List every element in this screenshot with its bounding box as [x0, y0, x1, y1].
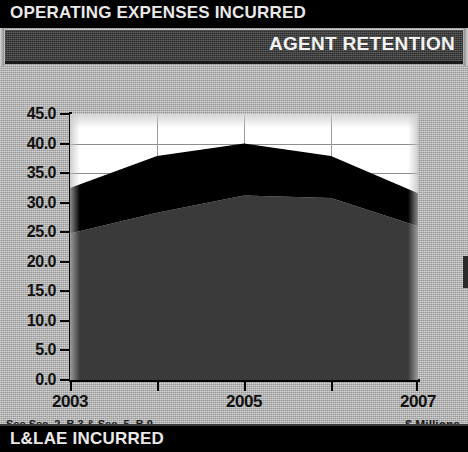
y-axis-tick-mark	[60, 172, 69, 174]
y-axis-tick-label: 30.0	[27, 194, 56, 212]
y-axis-tick-label: 35.0	[27, 164, 56, 182]
y-axis-tick-label: 0.0	[35, 371, 56, 389]
y-axis-tick-mark	[60, 349, 69, 351]
y-axis-tick-mark	[60, 290, 69, 292]
y-axis-tick-mark	[60, 202, 69, 204]
bottom-banner-title: L&LAE INCURRED	[10, 429, 164, 449]
chart-panel: AGENT RETENTION 45.040.035.030.025.020.0…	[0, 28, 468, 424]
x-axis-tick-mark	[244, 382, 246, 391]
x-axis-tick-label: 2005	[226, 392, 262, 412]
section-header-title: AGENT RETENTION	[269, 33, 455, 55]
y-axis-tick-mark	[60, 379, 69, 381]
x-axis-tick-label: 2007	[400, 392, 436, 412]
stacked-area-chart: 45.040.035.030.025.020.015.010.05.00.0 2…	[0, 66, 468, 424]
page-edge-notch	[463, 256, 468, 288]
y-axis-tick-mark	[60, 143, 69, 145]
series-paths	[70, 114, 418, 380]
x-axis-tick-mark	[331, 382, 333, 391]
bottom-banner: L&LAE INCURRED	[0, 424, 468, 452]
y-axis-tick-label: 20.0	[27, 253, 56, 271]
report-panel: OPERATING EXPENSES INCURRED AGENT RETENT…	[0, 0, 468, 452]
x-axis-tick-mark	[70, 382, 72, 391]
y-axis-tick-label: 10.0	[27, 312, 56, 330]
top-banner: OPERATING EXPENSES INCURRED	[0, 0, 468, 28]
y-axis-tick-label: 45.0	[27, 105, 56, 123]
y-axis-tick-mark	[60, 113, 69, 115]
x-axis-tick-mark	[416, 382, 418, 391]
section-header: AGENT RETENTION	[5, 30, 463, 64]
x-axis-tick-label: 2003	[52, 392, 88, 412]
y-axis-tick-label: 15.0	[27, 282, 56, 300]
top-banner-title: OPERATING EXPENSES INCURRED	[10, 3, 306, 23]
y-axis-tick-label: 5.0	[35, 341, 56, 359]
y-axis-tick-label: 25.0	[27, 223, 56, 241]
y-axis-tick-mark	[60, 320, 69, 322]
area-series-lower-band	[70, 196, 418, 380]
y-axis-labels: 45.040.035.030.025.020.015.010.05.00.0	[0, 66, 58, 356]
y-axis-tick-label: 40.0	[27, 135, 56, 153]
y-axis-tick-mark	[60, 231, 69, 233]
y-axis-tick-mark	[60, 261, 69, 263]
x-axis-tick-mark	[157, 382, 159, 391]
plot-area	[70, 114, 418, 380]
